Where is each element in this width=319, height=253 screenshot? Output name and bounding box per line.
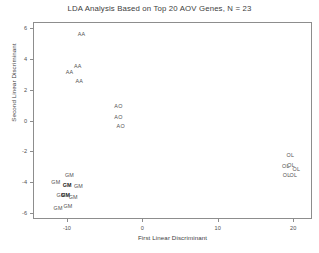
x-tick-mark [293, 219, 294, 222]
data-point-gm: GM [63, 182, 72, 188]
y-axis: Second Linear Discriminant 6420-2-4-6 [0, 22, 33, 219]
data-point-aa: AA [78, 31, 86, 37]
lda-scatter-figure: LDA Analysis Based on Top 20 AOV Genes, … [0, 0, 319, 253]
y-tick-label: 4 [7, 56, 27, 62]
data-point-gm: GM [65, 172, 74, 178]
x-tick-label: 10 [198, 225, 238, 231]
y-tick-label: -4 [7, 179, 27, 185]
data-point-aa: AA [66, 69, 74, 75]
data-point-gm: GM [74, 183, 83, 189]
y-tick-label: 2 [7, 87, 27, 93]
data-point-ol: OL [287, 152, 295, 158]
data-point-aa: AA [74, 63, 82, 69]
x-tick-mark [142, 219, 143, 222]
x-axis-label: First Linear Discriminant [33, 234, 312, 241]
y-axis-label: Second Linear Discriminant [10, 18, 17, 148]
y-tick-label: 0 [7, 118, 27, 124]
data-point-ao: AO [114, 103, 122, 109]
data-point-aa: AA [75, 78, 83, 84]
data-point-ol: OL [290, 172, 298, 178]
data-point-ao: AO [117, 123, 125, 129]
y-tick-label: -6 [7, 210, 27, 216]
data-point-gm: GM [54, 205, 63, 211]
x-tick-mark [218, 219, 219, 222]
x-tick-mark [67, 219, 68, 222]
data-point-gm: GM [51, 179, 60, 185]
data-point-ao: AO [114, 114, 122, 120]
x-tick-label: 20 [273, 225, 313, 231]
data-points-layer: AAAAAAAAAOAOAOOLOLOLOLOLOLGMGMGMGMGMGMGM… [34, 23, 311, 218]
plot-area: AAAAAAAAAOAOAOOLOLOLOLOLOLGMGMGMGMGMGMGM… [33, 22, 312, 219]
y-tick-label: -2 [7, 148, 27, 154]
data-point-gm: GM [69, 194, 78, 200]
x-tick-label: -10 [47, 225, 87, 231]
x-tick-label: 0 [122, 225, 162, 231]
y-tick-label: 6 [7, 25, 27, 31]
data-point-gm: GM [63, 203, 72, 209]
data-point-ol: OL [293, 166, 301, 172]
chart-title: LDA Analysis Based on Top 20 AOV Genes, … [0, 4, 319, 13]
